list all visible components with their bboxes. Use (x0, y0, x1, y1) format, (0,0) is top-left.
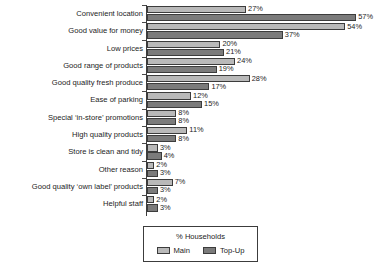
chart-category-row: Good quality fresh produce28%17% (0, 74, 389, 91)
bar-main[interactable] (147, 196, 154, 203)
bar-value-label: 8% (178, 134, 189, 144)
bar-main[interactable] (147, 110, 176, 117)
category-label: Good quality ‘own label’ products (0, 178, 143, 195)
legend-swatch-main-icon (157, 247, 170, 254)
bar-value-label: 19% (219, 64, 234, 74)
bar-main[interactable] (147, 41, 220, 48)
y-axis-line (146, 5, 147, 216)
bar-value-label: 37% (285, 30, 300, 40)
category-label: Good range of products (0, 57, 143, 74)
bar-value-label: 15% (204, 99, 219, 109)
bar-chart: Convenient location27%57%Good value for … (0, 0, 389, 265)
bar-main[interactable] (147, 144, 158, 151)
chart-category-row: Low prices20%21% (0, 40, 389, 57)
bar-value-label: 54% (347, 22, 362, 32)
legend-items: Main Top-Up (144, 246, 257, 255)
bar-topup[interactable] (147, 83, 209, 90)
category-label: Ease of parking (0, 91, 143, 108)
chart-category-row: Special ‘in-store’ promotions8%8% (0, 109, 389, 126)
chart-category-row: Good range of products24%19% (0, 57, 389, 74)
bar-value-label: 3% (160, 203, 171, 213)
bar-value-label: 3% (160, 168, 171, 178)
bar-main[interactable] (147, 6, 246, 13)
bar-value-label: 27% (248, 4, 263, 14)
category-label: Other reason (0, 161, 143, 178)
bar-value-label: 11% (189, 125, 203, 135)
category-label: Helpful staff (0, 195, 143, 212)
chart-category-row: Store is clean and tidy3%4% (0, 143, 389, 160)
bar-main[interactable] (147, 162, 154, 169)
legend-entry-main[interactable]: Main (157, 246, 190, 255)
bar-topup[interactable] (147, 187, 158, 194)
chart-category-row: Good quality ‘own label’ products7%3% (0, 178, 389, 195)
category-label: Convenient location (0, 5, 143, 22)
chart-legend: % Households Main Top-Up (143, 226, 258, 262)
legend-swatch-topup-icon (203, 247, 216, 254)
bar-value-label: 24% (237, 56, 252, 66)
bar-topup[interactable] (147, 118, 176, 125)
category-label: Store is clean and tidy (0, 143, 143, 160)
legend-label-main: Main (174, 246, 190, 255)
chart-category-row: Helpful staff2%3% (0, 195, 389, 212)
chart-category-row: Convenient location27%57% (0, 5, 389, 22)
bar-topup[interactable] (147, 14, 356, 21)
bar-topup[interactable] (147, 66, 217, 73)
category-label: Good quality fresh produce (0, 74, 143, 91)
chart-category-row: Ease of parking12%15% (0, 91, 389, 108)
category-label: High quality products (0, 126, 143, 143)
chart-category-row: Other reason2%3% (0, 161, 389, 178)
bar-topup[interactable] (147, 152, 162, 159)
bar-topup[interactable] (147, 204, 158, 211)
bar-value-label: 28% (252, 74, 267, 84)
category-label: Good value for money (0, 22, 143, 39)
legend-label-topup: Top-Up (220, 246, 244, 255)
category-label: Special ‘in-store’ promotions (0, 109, 143, 126)
bar-main[interactable] (147, 92, 191, 99)
chart-category-row: Good value for money54%37% (0, 22, 389, 39)
bar-value-label: 7% (175, 177, 186, 187)
category-label: Low prices (0, 40, 143, 57)
legend-title: % Households (144, 232, 257, 241)
bar-main[interactable] (147, 75, 250, 82)
legend-entry-topup[interactable]: Top-Up (203, 246, 244, 255)
bar-value-label: 8% (178, 116, 189, 126)
bar-topup[interactable] (147, 49, 224, 56)
plot-area: Convenient location27%57%Good value for … (0, 5, 389, 217)
bar-topup[interactable] (147, 135, 176, 142)
chart-category-row: High quality products11%8% (0, 126, 389, 143)
bar-topup[interactable] (147, 170, 158, 177)
bar-main[interactable] (147, 23, 345, 30)
bar-value-label: 17% (211, 82, 226, 92)
bar-topup[interactable] (147, 31, 283, 38)
bar-topup[interactable] (147, 101, 202, 108)
